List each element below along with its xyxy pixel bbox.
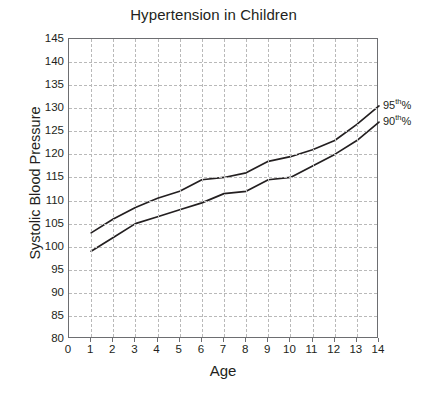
x-axis-tick-mark (356, 338, 357, 342)
x-axis-tick-mark (334, 338, 335, 342)
y-axis-tick-label: 105 (36, 217, 64, 229)
y-axis-tick-label: 110 (36, 194, 64, 206)
series-line-90th (91, 122, 379, 251)
x-axis-tick-mark (289, 338, 290, 342)
y-axis-tick-label: 100 (36, 240, 64, 252)
y-axis-tick-labels: 14514013513012512011511010510095908580 (32, 38, 64, 338)
series-line-95th (91, 106, 379, 233)
y-axis-tick-label: 130 (36, 101, 64, 113)
x-axis-tick-label: 14 (363, 343, 393, 355)
x-axis-title: Age (68, 362, 378, 379)
x-axis-tick-mark (157, 338, 158, 342)
series-container (69, 39, 379, 339)
y-axis-tick-label: 85 (36, 309, 64, 321)
y-axis-tick-label: 120 (36, 147, 64, 159)
x-axis-tick-mark (90, 338, 91, 342)
x-axis-tick-mark (245, 338, 246, 342)
x-axis-tick-labels: 01234567891011121314 (68, 343, 378, 359)
x-axis-tick-mark (267, 338, 268, 342)
chart-figure: Hypertension in Children Systolic Blood … (0, 0, 427, 401)
x-axis-tick-mark (223, 338, 224, 342)
x-axis-tick-mark (201, 338, 202, 342)
x-axis-tick-mark (112, 338, 113, 342)
series-label-95th: 95th% (383, 99, 411, 111)
chart-title: Hypertension in Children (0, 6, 427, 23)
y-axis-tick-label: 115 (36, 170, 64, 182)
y-axis-tick-label: 145 (36, 32, 64, 44)
y-axis-tick-label: 125 (36, 124, 64, 136)
x-axis-tick-mark (134, 338, 135, 342)
x-axis-tick-mark (378, 338, 379, 342)
series-label-90th: 90th% (383, 115, 411, 127)
y-axis-tick-label: 135 (36, 78, 64, 90)
plot-area (68, 38, 378, 338)
x-axis-tick-mark (179, 338, 180, 342)
y-axis-tick-label: 95 (36, 263, 64, 275)
y-axis-tick-label: 90 (36, 286, 64, 298)
y-axis-tick-label: 140 (36, 55, 64, 67)
x-axis-tick-mark (312, 338, 313, 342)
